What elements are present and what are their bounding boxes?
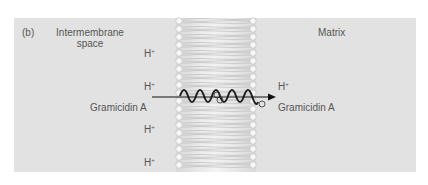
intermembrane-space-label: Intermembrane space	[50, 27, 130, 49]
proton-left-2: H+	[144, 122, 155, 135]
gramicidin-label-right: Gramicidin A	[278, 102, 335, 113]
panel-label: (b)	[22, 27, 34, 38]
gramicidin-label-left: Gramicidin A	[90, 102, 147, 113]
proton-right: H+	[278, 79, 289, 92]
matrix-label: Matrix	[318, 27, 345, 38]
proton-left-0: H+	[144, 46, 155, 59]
proton-left-3: H+	[144, 155, 155, 168]
proton-left-1: H+	[144, 79, 155, 92]
